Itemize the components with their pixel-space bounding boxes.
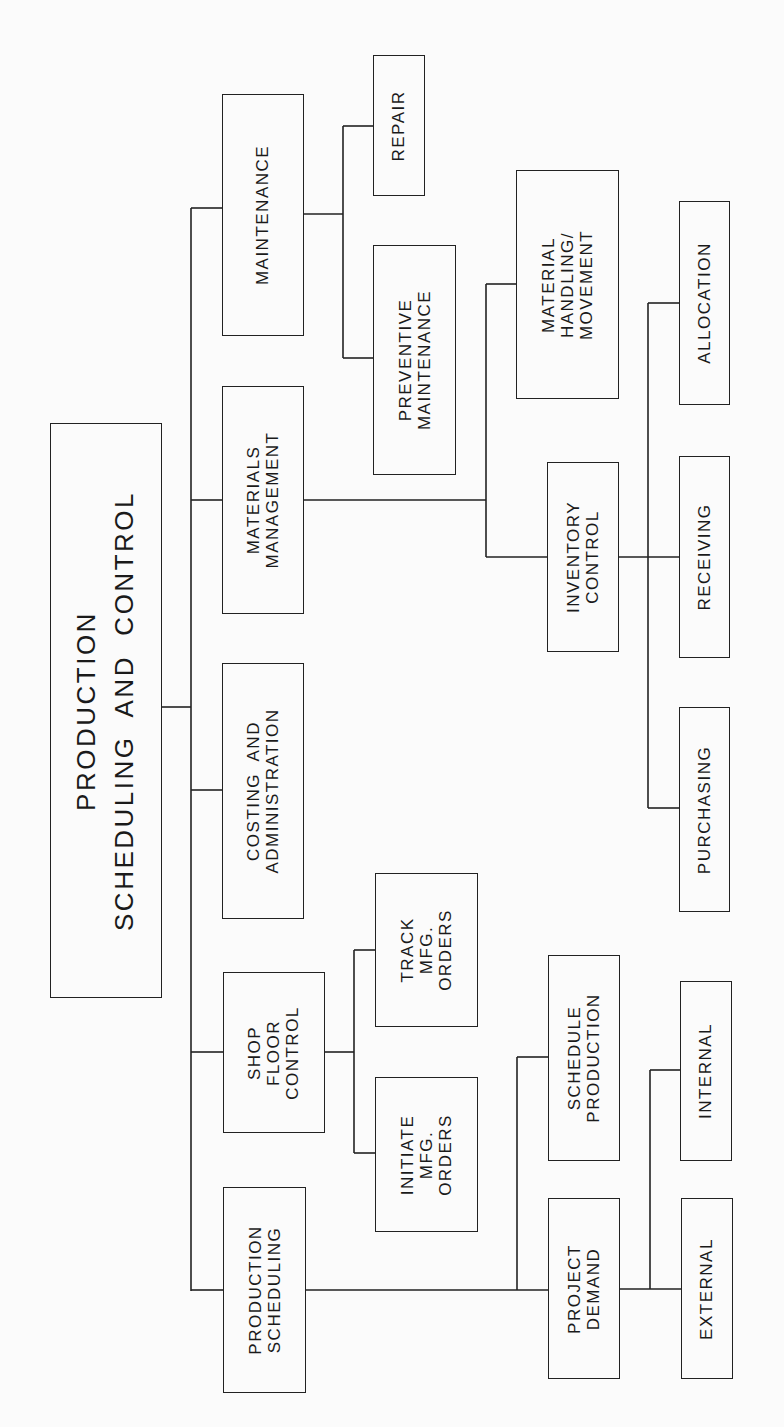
- node-costing-and-administration: COSTING AND ADMINISTRATION: [222, 663, 304, 919]
- node-repair: REPAIR: [373, 55, 425, 196]
- node-label: INTERNAL: [696, 1023, 715, 1119]
- node-label: EXTERNAL: [697, 1238, 716, 1340]
- node-label: MAINTENANCE: [253, 145, 272, 285]
- node-shop-floor-control: SHOP FLOOR CONTROL: [223, 972, 325, 1133]
- node-label: PURCHASING: [695, 745, 714, 873]
- node-external: EXTERNAL: [681, 1198, 733, 1379]
- node-internal: INTERNAL: [680, 981, 732, 1161]
- node-project-demand: PROJECT DEMAND: [548, 1198, 620, 1379]
- node-label: PROJECT DEMAND: [565, 1244, 603, 1334]
- node-label: MATERIALS MANAGEMENT: [244, 432, 282, 569]
- node-label: REPAIR: [389, 90, 408, 161]
- node-materials-management: MATERIALS MANAGEMENT: [222, 386, 304, 614]
- node-label: INITIATE MFG. ORDERS: [398, 1114, 455, 1196]
- node-preventive-maintenance: PREVENTIVE MAINTENANCE: [373, 245, 456, 475]
- node-label: TRACK MFG. ORDERS: [398, 909, 455, 991]
- node-track-mfg-orders: TRACK MFG. ORDERS: [375, 873, 478, 1027]
- node-maintenance: MAINTENANCE: [222, 94, 304, 336]
- node-label: PREVENTIVE MAINTENANCE: [395, 290, 433, 430]
- node-production-scheduling-and-control: PRODUCTION SCHEDULING AND CONTROL: [50, 423, 162, 998]
- node-label: PRODUCTION SCHEDULING: [245, 1225, 283, 1354]
- node-material-handling-movement: MATERIAL HANDLING/ MOVEMENT: [516, 170, 619, 399]
- node-inventory-control: INVENTORY CONTROL: [547, 462, 619, 652]
- node-receiving: RECEIVING: [679, 456, 730, 658]
- node-label: ALLOCATION: [695, 242, 714, 363]
- node-label: SHOP FLOOR CONTROL: [245, 1006, 302, 1100]
- node-purchasing: PURCHASING: [679, 707, 730, 912]
- node-initiate-mfg-orders: INITIATE MFG. ORDERS: [375, 1077, 478, 1232]
- node-label: SCHEDULE PRODUCTION: [565, 993, 603, 1122]
- node-label: INVENTORY CONTROL: [564, 501, 602, 613]
- node-production-scheduling: PRODUCTION SCHEDULING: [223, 1187, 306, 1393]
- node-label: MATERIAL HANDLING/ MOVEMENT: [539, 229, 596, 339]
- node-label: PRODUCTION SCHEDULING AND CONTROL: [68, 491, 143, 931]
- node-schedule-production: SCHEDULE PRODUCTION: [548, 955, 620, 1161]
- node-allocation: ALLOCATION: [679, 201, 730, 405]
- node-label: COSTING AND ADMINISTRATION: [244, 708, 282, 873]
- node-label: RECEIVING: [695, 503, 714, 610]
